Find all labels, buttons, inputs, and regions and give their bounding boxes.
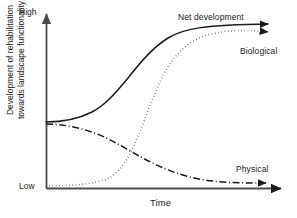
- curve-physical: [46, 124, 266, 183]
- curve-net-development: [46, 24, 268, 122]
- x-axis-title: Time: [150, 197, 171, 208]
- y-axis-title-line1: Development of rehabilitation: [5, 0, 16, 135]
- y-axis-low-label: Low: [19, 181, 35, 191]
- y-axis-high-label: High: [19, 7, 36, 17]
- y-axis-title-line2: towards landscape functionality: [16, 0, 27, 135]
- curve-label-physical: Physical: [236, 164, 268, 174]
- curve-label-net-development: Net development: [178, 12, 244, 22]
- chart-plot-area: [0, 0, 297, 218]
- curve-biological: [46, 31, 268, 186]
- rehabilitation-development-chart: Development of rehabilitation towards la…: [0, 0, 297, 218]
- y-axis-title: Development of rehabilitation towards la…: [5, 0, 29, 135]
- curve-label-biological: Biological: [240, 46, 277, 56]
